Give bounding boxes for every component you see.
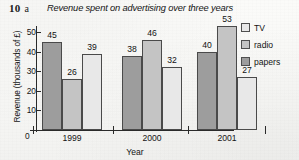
legend-label: radio — [254, 40, 273, 50]
legend-swatch — [241, 57, 250, 66]
y-tick-mark — [36, 52, 41, 53]
bar — [142, 40, 162, 130]
legend-swatch — [241, 23, 250, 32]
x-group-label: 2000 — [114, 133, 190, 143]
bar-value-label: 39 — [79, 43, 105, 52]
y-tick-mark — [36, 71, 41, 72]
bar — [82, 54, 102, 130]
bar-value-label: 32 — [159, 56, 185, 65]
bar-value-label: 45 — [39, 31, 65, 40]
legend-item: radio — [241, 37, 297, 52]
bar-value-label: 46 — [139, 29, 165, 38]
x-group-tick — [188, 126, 189, 134]
legend-label: papers — [254, 57, 280, 67]
x-group-tick — [33, 126, 34, 134]
bar — [217, 26, 237, 130]
worksheet-page: 10a Revenue spent on advertising over th… — [0, 0, 299, 160]
y-axis-line — [36, 26, 37, 132]
bar — [62, 79, 82, 130]
x-group-tick — [113, 126, 114, 134]
y-axis-title: Revenue (thousands of £) — [13, 19, 22, 135]
bar — [42, 42, 62, 130]
bar — [197, 52, 217, 130]
bar — [122, 56, 142, 130]
legend-item: TV — [241, 20, 297, 35]
y-axis-zero-label: 0 — [25, 131, 30, 141]
x-group-label: 2001 — [189, 133, 265, 143]
x-group-label: 1999 — [34, 133, 110, 143]
bar — [162, 67, 182, 130]
x-axis-title: Year — [105, 147, 165, 157]
y-tick-mark — [36, 110, 41, 111]
y-tick-mark — [36, 91, 41, 92]
legend-swatch — [241, 40, 250, 49]
bar — [237, 77, 257, 130]
bar-value-label: 53 — [214, 15, 240, 24]
x-axis-line — [30, 130, 234, 131]
x-group-tick — [265, 126, 266, 134]
legend-label: TV — [254, 23, 265, 33]
legend-item: papers — [241, 54, 297, 69]
chart-legend: TVradiopapers — [241, 20, 297, 71]
